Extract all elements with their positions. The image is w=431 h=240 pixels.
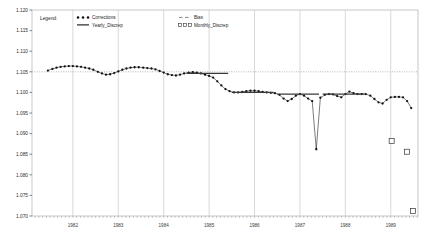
data-point-corrections — [303, 95, 305, 97]
data-point-monthly-discrep — [411, 209, 416, 214]
data-point-corrections — [47, 69, 49, 71]
data-point-corrections — [80, 66, 82, 68]
data-point-corrections — [287, 100, 289, 102]
data-point-corrections — [171, 74, 173, 76]
legend-marker-circle — [87, 16, 90, 19]
data-point-corrections — [72, 65, 74, 67]
data-point-corrections — [274, 92, 276, 94]
data-point-corrections — [146, 67, 148, 69]
xtick-label-1986: 1986 — [249, 223, 260, 228]
data-point-corrections — [84, 67, 86, 69]
legend-marker-circle — [82, 16, 85, 19]
data-point-corrections — [319, 97, 321, 99]
data-point-corrections — [150, 67, 152, 69]
data-point-corrections — [377, 101, 379, 103]
data-point-corrections — [291, 98, 293, 100]
data-point-corrections — [55, 67, 57, 69]
data-point-corrections — [365, 93, 367, 95]
data-point-corrections — [167, 73, 169, 75]
legend-marker-square — [188, 23, 191, 26]
legend-marker-square — [183, 23, 186, 26]
data-point-corrections — [88, 67, 90, 69]
legend-marker-square — [178, 23, 181, 26]
data-point-corrections — [142, 67, 144, 69]
data-point-corrections — [208, 75, 210, 77]
data-point-corrections — [117, 70, 119, 72]
ytick-label: 1.080 — [16, 173, 28, 178]
ytick-label: 1.070 — [16, 214, 28, 219]
data-point-corrections — [109, 73, 111, 75]
data-point-corrections — [158, 70, 160, 72]
ytick-label: 1.095 — [16, 111, 28, 116]
discrepancy-time-series-chart: 1.0701.0751.0801.0851.0901.0951.1001.105… — [0, 0, 431, 240]
data-point-corrections — [175, 74, 177, 76]
data-point-corrections — [101, 72, 103, 74]
legend-title: Legend: — [40, 16, 57, 21]
legend-marker-circle — [77, 16, 80, 19]
data-point-corrections — [220, 84, 222, 86]
data-point-corrections — [224, 88, 226, 90]
data-point-corrections — [129, 67, 131, 69]
data-point-corrections — [340, 96, 342, 98]
xtick-label-1989: 1989 — [386, 223, 397, 228]
data-point-corrections — [183, 72, 185, 74]
data-point-corrections — [307, 97, 309, 99]
data-point-corrections — [76, 65, 78, 67]
data-point-corrections — [315, 148, 317, 150]
data-point-corrections — [295, 95, 297, 97]
data-point-corrections — [249, 90, 251, 92]
legend-label: Yearly_Discrep — [92, 23, 123, 28]
xtick-label-1984: 1984 — [159, 223, 170, 228]
data-point-corrections — [212, 76, 214, 78]
data-point-corrections — [138, 66, 140, 68]
ytick-label: 1.110 — [16, 49, 28, 54]
data-point-corrections — [386, 99, 388, 101]
legend-label: Monthly_Discrep — [194, 23, 229, 28]
data-point-corrections — [64, 65, 66, 67]
data-point-corrections — [348, 90, 350, 92]
data-point-corrections — [68, 65, 70, 67]
data-point-corrections — [390, 96, 392, 98]
xtick-label-1983: 1983 — [113, 223, 124, 228]
data-point-corrections — [311, 100, 313, 102]
data-point-corrections — [163, 71, 165, 73]
data-point-corrections — [394, 96, 396, 98]
legend-entry-monthly_discrep: Monthly_Discrep — [178, 23, 228, 28]
ytick-label: 1.085 — [16, 152, 28, 157]
data-point-corrections — [402, 96, 404, 98]
data-point-corrections — [369, 95, 371, 97]
data-point-monthly-discrep — [389, 139, 394, 144]
xtick-label-1988: 1988 — [340, 223, 351, 228]
data-point-corrections — [336, 95, 338, 97]
data-point-monthly-discrep — [405, 149, 410, 154]
data-point-corrections — [381, 102, 383, 104]
chart-container: 1.0701.0751.0801.0851.0901.0951.1001.105… — [0, 0, 431, 240]
data-point-corrections — [133, 66, 135, 68]
data-point-corrections — [373, 98, 375, 100]
data-point-corrections — [398, 96, 400, 98]
data-point-corrections — [228, 90, 230, 92]
data-point-corrections — [179, 74, 181, 76]
data-point-corrections — [105, 74, 107, 76]
data-point-corrections — [113, 72, 115, 74]
xtick-label-1987: 1987 — [295, 223, 306, 228]
ytick-label: 1.090 — [16, 131, 28, 136]
data-point-corrections — [51, 68, 53, 70]
data-point-corrections — [406, 100, 408, 102]
ytick-label: 1.075 — [16, 193, 28, 198]
ytick-label: 1.100 — [16, 90, 28, 95]
data-point-corrections — [97, 71, 99, 73]
data-point-corrections — [253, 90, 255, 92]
data-point-corrections — [59, 66, 61, 68]
ytick-label: 1.120 — [16, 8, 28, 13]
legend-label: Corrections — [92, 15, 116, 20]
xtick-label-1982: 1982 — [68, 223, 79, 228]
data-point-corrections — [121, 69, 123, 71]
xtick-label-1985: 1985 — [204, 223, 215, 228]
ytick-label: 1.105 — [16, 70, 28, 75]
data-point-corrections — [125, 67, 127, 69]
data-point-corrections — [92, 69, 94, 71]
ytick-label: 1.115 — [16, 28, 28, 33]
data-point-corrections — [282, 97, 284, 99]
data-point-corrections — [216, 80, 218, 82]
